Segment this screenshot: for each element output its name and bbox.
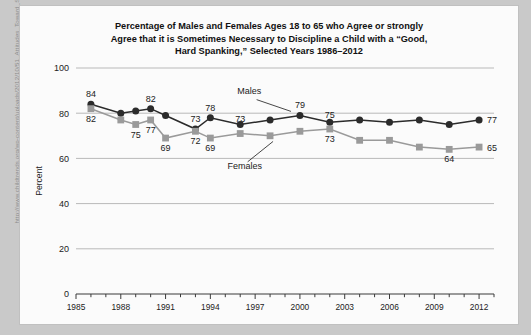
point-label-males-1996: 73 [235, 114, 245, 124]
xtick-label-1985: 1985 [67, 302, 86, 312]
xtick-label-1988: 1988 [111, 302, 130, 312]
xtick-label-2012: 2012 [470, 302, 489, 312]
annotation-leader-males [257, 100, 291, 112]
point-label-females-1989: 75 [131, 130, 141, 140]
xtick-label-2000: 2000 [291, 302, 310, 312]
data-point-females-2008 [416, 144, 423, 151]
annotation-label-females: Females [227, 161, 262, 171]
annotation-label-males: Males [237, 86, 262, 96]
plot-area: 0204060801001985198819911994199720002003… [20, 6, 520, 326]
point-label-males-2000: 79 [295, 100, 305, 110]
xtick-label-2006: 2006 [380, 302, 399, 312]
ytick-label-80: 80 [59, 109, 69, 119]
point-label-females-1986: 82 [86, 114, 96, 124]
ytick-label-60: 60 [59, 154, 69, 164]
point-label-males-2002: 75 [325, 110, 335, 120]
ytick-label-20: 20 [59, 244, 69, 254]
page-root: http://www.childtrends.org/wp-content/up… [0, 0, 531, 335]
point-label-females-1990: 77 [146, 125, 156, 135]
data-point-males-2008 [416, 116, 423, 123]
data-point-females-2004 [356, 137, 363, 144]
data-point-females-1991 [162, 135, 169, 142]
data-point-males-1994 [207, 114, 214, 121]
data-point-males-2010 [446, 121, 453, 128]
point-label-males-1993: 73 [190, 114, 200, 124]
chart-card: Percentage of Males and Females Ages 18 … [19, 5, 519, 325]
data-point-females-1989 [132, 121, 139, 128]
data-point-females-1994 [207, 135, 214, 142]
data-point-males-2000 [296, 112, 303, 119]
data-point-females-2002 [326, 126, 333, 133]
data-point-females-1990 [147, 117, 154, 124]
data-point-females-2010 [446, 146, 453, 153]
point-label-females-1993: 72 [190, 136, 200, 146]
data-point-females-1996 [237, 130, 244, 137]
ytick-label-40: 40 [59, 199, 69, 209]
data-point-females-2000 [297, 128, 304, 135]
data-point-males-1998 [267, 116, 274, 123]
point-label-females-1994: 69 [205, 143, 215, 153]
data-point-females-2012 [476, 144, 483, 151]
line-chart: 0204060801001985198819911994199720002003… [20, 6, 520, 326]
xtick-label-2003: 2003 [335, 302, 354, 312]
ytick-label-0: 0 [64, 289, 69, 299]
data-point-females-2006 [386, 137, 393, 144]
data-point-females-1993 [192, 128, 199, 135]
xtick-label-2009: 2009 [425, 302, 444, 312]
data-point-males-2006 [386, 119, 393, 126]
data-point-females-1988 [117, 117, 124, 124]
data-point-females-1998 [267, 132, 274, 139]
xtick-label-1991: 1991 [156, 302, 175, 312]
xtick-label-1997: 1997 [246, 302, 265, 312]
data-point-males-1988 [117, 110, 124, 117]
data-point-males-1991 [162, 112, 169, 119]
y-axis-title: Percent [34, 166, 44, 196]
point-label-males-1986: 84 [86, 89, 96, 99]
point-label-males-1990: 82 [146, 94, 156, 104]
point-label-females-2002: 73 [325, 134, 335, 144]
data-point-females-1986 [88, 105, 95, 112]
data-point-males-2002 [326, 119, 333, 126]
data-point-males-1989 [132, 107, 139, 114]
ytick-label-100: 100 [54, 63, 69, 73]
data-point-males-1990 [147, 105, 154, 112]
data-point-males-2012 [476, 116, 483, 123]
point-label-females-2012: 65 [487, 143, 497, 153]
point-label-females-2010: 64 [444, 154, 454, 164]
xtick-label-1994: 1994 [201, 302, 220, 312]
point-label-males-1994: 78 [205, 103, 215, 113]
point-label-males-2012: 77 [487, 115, 497, 125]
data-point-males-2004 [356, 116, 363, 123]
point-label-females-1991: 69 [161, 143, 171, 153]
